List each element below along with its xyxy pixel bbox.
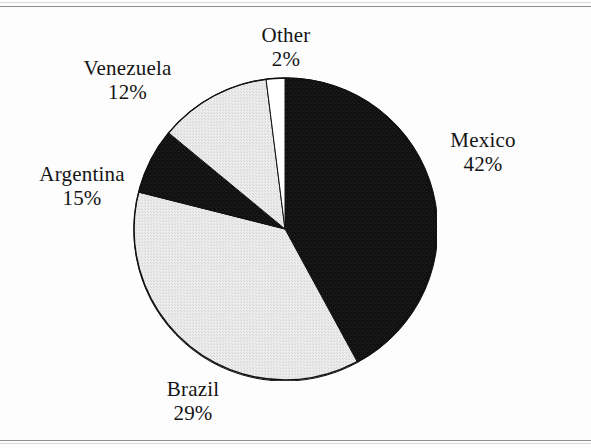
bottom-divider-rule (0, 440, 591, 441)
slice-label-argentina: Argentina 15% (2, 163, 162, 210)
pie-graphic (133, 77, 437, 381)
slice-label-mexico: Mexico 42% (408, 129, 558, 176)
slice-label-mexico-name: Mexico (408, 129, 558, 153)
slice-label-other-pct: 2% (216, 48, 356, 72)
slice-label-brazil-name: Brazil (123, 378, 263, 402)
slice-label-brazil: Brazil 29% (123, 378, 263, 425)
pie-svg (133, 77, 437, 381)
slice-label-venezuela-pct: 12% (45, 81, 210, 105)
slice-label-mexico-pct: 42% (408, 153, 558, 177)
top-divider-rule (0, 6, 591, 7)
top-rule-faint (0, 2, 591, 3)
slice-label-venezuela: Venezuela 12% (45, 57, 210, 104)
bottom-rule-faint (0, 443, 591, 444)
slice-label-other-name: Other (216, 24, 356, 48)
slice-label-venezuela-name: Venezuela (45, 57, 210, 81)
slice-label-argentina-pct: 15% (2, 187, 162, 211)
slice-label-other: Other 2% (216, 24, 356, 71)
slice-label-brazil-pct: 29% (123, 402, 263, 426)
slice-label-argentina-name: Argentina (2, 163, 162, 187)
pie-chart-figure: Other 2% Venezuela 12% Argentina 15% Mex… (0, 0, 591, 448)
